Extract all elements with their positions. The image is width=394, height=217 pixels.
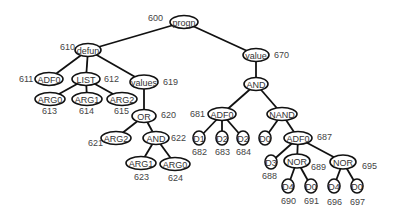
reference-number: 690 [281,196,296,206]
tree-node-d3: D3 [265,155,277,169]
node-label: AND [246,80,266,90]
node-label: ARG2 [110,95,135,105]
reference-number: 620 [161,110,176,120]
node-label: D4 [328,182,340,192]
tree-node-adf0: ADF0 [35,73,63,86]
node-label: NAND [269,110,295,120]
reference-number: 615 [114,106,129,116]
tree-node-d2: D2 [237,131,249,145]
node-label: OR [137,112,151,122]
tree-svg: progn600defun610value670ADF0611LIST612va… [0,0,394,217]
node-label: NOR [287,157,308,167]
reference-number: 670 [274,50,289,60]
nodes: progn600defun610value670ADF0611LIST612va… [19,13,377,207]
reference-number: 622 [171,133,186,143]
tree-node-arg0: ARG0 [35,93,65,106]
tree-node-d4: D4 [328,179,340,193]
node-label: D4 [282,182,294,192]
node-label: D1 [193,134,205,144]
tree-node-value: value [243,49,269,62]
reference-number: 683 [215,147,230,157]
tree-node-nor: NOR [284,154,310,168]
reference-number: 624 [168,173,183,183]
reference-number: 681 [190,109,205,119]
node-label: progn [172,18,195,28]
node-label: values [131,78,158,88]
tree-node-arg2: ARG2 [107,93,137,106]
tree-node-d2: D2 [216,131,228,145]
reference-number: 682 [192,147,207,157]
reference-number: 691 [304,196,319,206]
node-label: ADF0 [286,134,309,144]
node-label: LIST [76,75,96,85]
tree-node-arg1: ARG1 [72,93,102,106]
edge-n600-n610 [88,22,184,50]
node-label: value [245,51,267,61]
reference-number: 612 [104,74,119,84]
node-label: ARG2 [104,134,129,144]
tree-node-defun: defun [75,44,101,57]
reference-number: 600 [148,13,163,23]
node-label: defun [77,46,100,56]
node-label: D2 [237,134,249,144]
tree-node-and: AND [143,132,169,145]
reference-number: 614 [79,106,94,116]
reference-number: 689 [311,162,326,172]
tree-node-nor: NOR [330,155,356,169]
tree-node-d0: D0 [259,131,271,145]
tree-node-values: values [130,75,158,89]
tree-node-progn: progn [170,16,198,29]
reference-number: 621 [88,138,103,148]
node-label: D2 [216,134,228,144]
tree-node-nand: NAND [267,108,297,121]
node-label: NOR [333,158,354,168]
node-label: D3 [265,158,277,168]
reference-number: 687 [317,132,332,142]
node-label: AND [146,134,166,144]
node-label: ARG0 [38,95,63,105]
tree-node-d0: D0 [351,179,363,193]
tree-node-arg1: ARG1 [126,157,156,170]
tree-diagram: progn600defun610value670ADF0611LIST612va… [0,0,394,217]
reference-number: 613 [42,106,57,116]
reference-number: 695 [362,161,377,171]
node-label: D0 [259,134,271,144]
node-label: ARG1 [75,95,100,105]
reference-number: 623 [134,172,149,182]
reference-number: 611 [19,74,33,84]
reference-number: 610 [60,42,75,52]
tree-node-d1: D1 [193,131,205,145]
reference-number: 619 [163,77,178,87]
tree-node-adf0: ADF0 [284,132,312,145]
tree-node-adf0: ADF0 [208,108,236,121]
tree-node-list: LIST [72,73,100,86]
tree-node-d0: D0 [305,179,317,193]
node-label: ADF0 [37,75,60,85]
node-label: ARG1 [129,159,154,169]
node-label: D0 [351,182,363,192]
node-label: D0 [305,182,317,192]
tree-node-d4: D4 [282,179,294,193]
reference-number: 697 [350,197,365,207]
node-label: ARG0 [163,160,188,170]
tree-node-arg0: ARG0 [160,158,190,171]
reference-number: 696 [327,197,342,207]
tree-node-and: AND [244,78,268,91]
node-label: ADF0 [210,110,233,120]
tree-node-arg2: ARG2 [101,132,131,145]
reference-number: 684 [236,147,251,157]
reference-number: 688 [262,171,277,181]
tree-node-or: OR [132,110,156,123]
